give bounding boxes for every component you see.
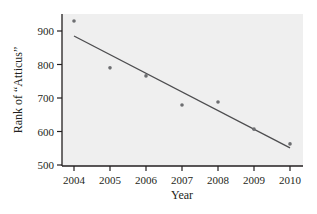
x-tick-label: 2009: [243, 174, 266, 186]
y-tick-label: 700: [38, 92, 55, 104]
x-tick-label: 2007: [171, 174, 194, 186]
y-tick-label: 900: [38, 25, 55, 37]
data-point: [216, 100, 220, 104]
x-tick-label: 2004: [63, 174, 86, 186]
y-tick-label: 500: [38, 159, 55, 171]
data-point: [72, 19, 76, 23]
x-tick-label: 2005: [99, 174, 122, 186]
chart-svg: 500600700800900 200420052006200720082009…: [0, 0, 317, 214]
y-tick-label: 600: [38, 126, 55, 138]
data-point: [180, 103, 184, 107]
data-point: [144, 74, 148, 78]
data-point: [288, 142, 292, 146]
data-point: [108, 66, 112, 70]
x-axis-ticks: 2004200520062007200820092010: [63, 166, 302, 186]
x-tick-label: 2008: [207, 174, 230, 186]
y-axis-ticks: 500600700800900: [38, 25, 63, 171]
x-axis-title: Year: [171, 188, 193, 202]
x-tick-label: 2006: [135, 174, 158, 186]
x-tick-label: 2010: [279, 174, 302, 186]
y-axis-title: Rank of “Atticus”: [11, 47, 25, 134]
plot-area: [62, 14, 303, 166]
data-point: [252, 127, 256, 131]
y-tick-label: 800: [38, 59, 55, 71]
